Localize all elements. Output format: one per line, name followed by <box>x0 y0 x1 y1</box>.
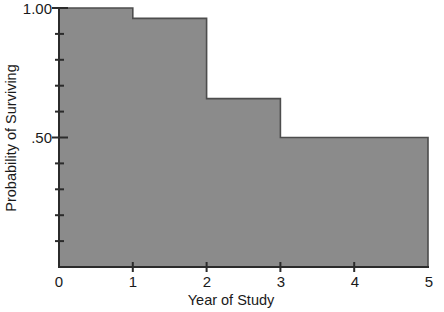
x-tick-label-4: 4 <box>351 273 359 290</box>
x-axis-title: Year of Study <box>188 292 275 308</box>
y-axis-title: Probability of Surviving <box>3 64 19 212</box>
x-tick-label-0: 0 <box>55 273 63 290</box>
x-tick-label-3: 3 <box>277 273 285 290</box>
x-tick-label-5: 5 <box>425 273 433 290</box>
x-tick-label-2: 2 <box>203 273 211 290</box>
survival-step-area <box>59 8 428 267</box>
x-tick-label-1: 1 <box>129 273 137 290</box>
chart-canvas: 1.00 .50 0 1 2 3 4 5 Year of Study Proba… <box>0 0 444 312</box>
survival-chart: 1.00 .50 0 1 2 3 4 5 Year of Study Proba… <box>0 0 444 312</box>
y-tick-label-mid: .50 <box>31 129 52 146</box>
y-tick-label-top: 1.00 <box>23 0 52 17</box>
